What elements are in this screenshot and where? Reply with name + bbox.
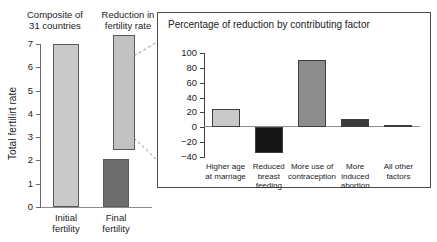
inset-chart-tick-label: 20 — [169, 106, 197, 117]
inset-chart-bar — [298, 60, 326, 128]
inset-chart-tick-mark — [200, 68, 205, 69]
main-chart-tick-label: 6 — [17, 61, 33, 72]
main-chart-tick-label: 1 — [17, 178, 33, 189]
main-chart-tick-label: 7 — [17, 38, 33, 49]
inset-chart-tick-mark — [200, 142, 205, 143]
main-chart-tick-mark — [36, 184, 41, 185]
main-chart-header-right: Reduction infertility rate — [96, 9, 160, 31]
main-chart-tick-mark — [36, 114, 41, 115]
inset-chart-title: Percentage of reduction by contributing … — [168, 19, 370, 30]
inset-chart-tick-label: −40 — [169, 151, 197, 162]
main-chart-tick-label: 2 — [17, 154, 33, 165]
main-chart-tick-mark — [36, 44, 41, 45]
main-chart-tick-mark — [36, 67, 41, 68]
main-chart-x-axis-line — [40, 207, 152, 208]
inset-chart-bar — [384, 125, 412, 127]
main-chart-tick-label: 5 — [17, 85, 33, 96]
main-chart-tick-mark — [36, 160, 41, 161]
inset-chart-tick-label: 0 — [169, 121, 197, 132]
main-chart-category-label: Initialfertility — [38, 212, 94, 234]
bar-reduction-in-fertility-rate — [113, 35, 135, 150]
inset-chart-tick-label: 40 — [169, 92, 197, 103]
inset-chart-tick-mark — [200, 53, 205, 54]
inset-chart-bar — [212, 109, 240, 128]
main-chart-tick-mark — [36, 207, 41, 208]
bar-initial-fertility — [53, 44, 79, 207]
inset-chart-tick-label: 100 — [169, 47, 197, 58]
bar-final-fertility — [103, 159, 129, 207]
main-chart-category-label: Finalfertility — [88, 212, 144, 234]
inset-chart-bar — [255, 127, 283, 153]
inset-chart-tick-mark — [200, 98, 205, 99]
main-chart-tick-mark — [36, 137, 41, 138]
main-chart-y-axis-title: Total fertilirt rate — [7, 54, 18, 194]
main-chart-tick-label: 3 — [17, 131, 33, 142]
inset-chart-tick-label: 80 — [169, 62, 197, 73]
inset-chart-panel: Percentage of reduction by contributing … — [157, 12, 431, 188]
main-chart-tick-label: 0 — [17, 201, 33, 212]
inset-chart-tick-mark — [200, 83, 205, 84]
main-chart-tick-mark — [36, 91, 41, 92]
inset-chart-tick-mark — [200, 157, 205, 158]
inset-chart-tick-label: 60 — [169, 77, 197, 88]
inset-chart-bar — [341, 119, 369, 127]
main-chart-header-left: Composite of31 countries — [16, 9, 94, 31]
fertility-figure: Composite of31 countries Reduction infer… — [0, 0, 437, 242]
inset-chart-tick-mark — [200, 112, 205, 113]
inset-chart-category-label: All otherfactors — [368, 162, 428, 181]
inset-chart-tick-label: −20 — [169, 136, 197, 147]
main-chart-panel: Composite of31 countries Reduction infer… — [0, 0, 160, 242]
main-chart-tick-label: 4 — [17, 108, 33, 119]
inset-chart-tick-mark — [200, 127, 205, 128]
